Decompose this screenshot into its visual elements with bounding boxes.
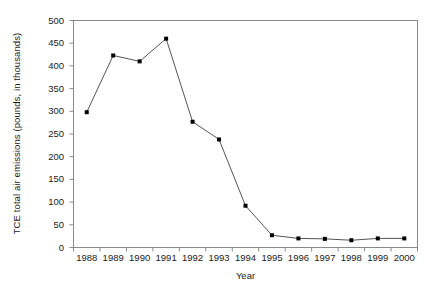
data-point-marker [402, 236, 406, 240]
plot-frame [74, 21, 418, 248]
data-point-marker [270, 233, 274, 237]
data-point-marker [138, 59, 142, 63]
chart-container: TCE total air emissions (pounds, in thou… [0, 0, 435, 299]
data-point-marker [244, 204, 248, 208]
data-point-marker [85, 110, 89, 114]
data-point-marker [191, 120, 195, 124]
data-point-marker [217, 137, 221, 141]
data-point-marker [164, 37, 168, 41]
x-tick-label: 2000 [387, 253, 421, 263]
data-point-marker [349, 238, 353, 242]
x-axis-ticks [74, 248, 418, 252]
y-axis-ticks [70, 21, 74, 248]
data-point-marker [296, 236, 300, 240]
data-point-marker [323, 237, 327, 241]
data-point-marker [111, 53, 115, 57]
data-point-marker [376, 236, 380, 240]
x-axis-title: Year [73, 270, 418, 281]
